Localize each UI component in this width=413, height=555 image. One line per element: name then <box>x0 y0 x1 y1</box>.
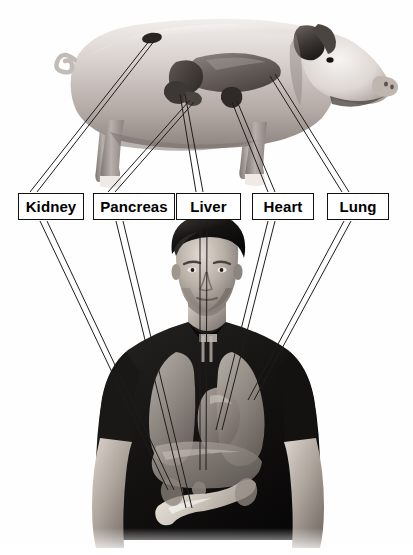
label-box-pancreas[interactable]: Pancreas <box>93 193 175 220</box>
label-box-heart[interactable]: Heart <box>252 193 314 220</box>
label-text-kidney: Kidney <box>26 199 77 214</box>
xenotransplantation-diagram: Kidney Pancreas Liver Heart Lung <box>0 0 413 555</box>
label-box-lung[interactable]: Lung <box>327 193 389 220</box>
diagram-artwork <box>0 0 413 555</box>
label-text-lung: Lung <box>339 199 376 214</box>
label-box-kidney[interactable]: Kidney <box>18 193 84 220</box>
label-text-liver: Liver <box>190 199 226 214</box>
label-text-heart: Heart <box>264 199 303 214</box>
label-text-pancreas: Pancreas <box>100 199 168 214</box>
label-box-liver[interactable]: Liver <box>176 193 241 220</box>
